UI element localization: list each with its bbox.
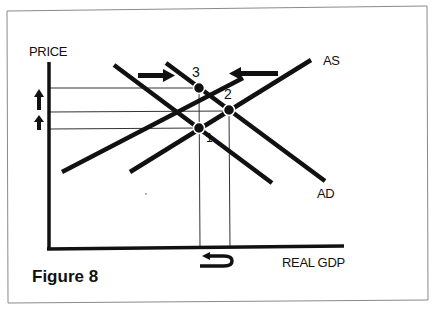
figure-caption: Figure 8 bbox=[32, 267, 98, 287]
point-2-marker bbox=[224, 105, 235, 116]
figure-frame bbox=[7, 6, 428, 303]
ad-curve-label: AD bbox=[317, 186, 334, 201]
point-1-label: 1 bbox=[206, 131, 213, 145]
point-1-marker bbox=[194, 123, 205, 134]
y-axis-label: PRICE bbox=[29, 44, 67, 59]
point-3-label: 3 bbox=[192, 64, 200, 80]
speck bbox=[145, 193, 147, 195]
as-curve-label: AS bbox=[323, 53, 340, 68]
x-axis-label: REAL GDP bbox=[282, 255, 345, 270]
point-3-marker bbox=[194, 83, 205, 94]
point-2-label: 2 bbox=[224, 86, 232, 102]
